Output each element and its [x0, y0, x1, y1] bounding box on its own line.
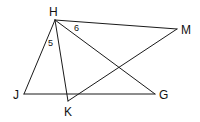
- vertex-label-m: M: [181, 23, 191, 37]
- vertex-label-j: J: [13, 88, 19, 102]
- vertex-label-k: K: [64, 105, 72, 119]
- angle-label-6: 6: [74, 23, 79, 33]
- geometry-diagram: H M J K G 5 6: [0, 0, 200, 122]
- vertex-label-h: H: [49, 5, 58, 19]
- segment-hj: [24, 20, 55, 94]
- segment-hk: [55, 20, 68, 101]
- angle-label-5: 5: [48, 38, 53, 48]
- segment-hg: [55, 20, 155, 94]
- vertex-label-g: G: [159, 88, 168, 102]
